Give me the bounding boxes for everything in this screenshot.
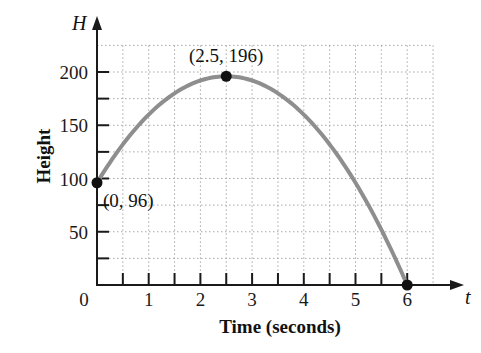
- x-tick-labels: 0123456: [79, 289, 412, 310]
- y-tick-label: 50: [69, 222, 88, 243]
- chart: (0, 96)(2.5, 196) 50100150200 0123456 H …: [0, 0, 481, 353]
- y-axis: [97, 28, 109, 285]
- x-axis-arrow-icon: [450, 280, 464, 290]
- x-tick-label: 5: [351, 289, 361, 310]
- x-tick-label: 4: [299, 289, 309, 310]
- y-axis-title: Height: [33, 128, 54, 184]
- x-tick-label: 6: [402, 289, 412, 310]
- x-tick-label: 0: [79, 289, 89, 310]
- y-tick-label: 100: [60, 169, 89, 190]
- point-label: (2.5, 196): [189, 45, 263, 67]
- grid: [97, 45, 433, 285]
- y-tick-label: 150: [60, 115, 89, 136]
- data-point-marker: [92, 177, 103, 188]
- x-tick-label: 1: [144, 289, 154, 310]
- x-axis-title: Time (seconds): [219, 316, 341, 338]
- y-tick-labels: 50100150200: [60, 62, 89, 243]
- x-variable-label: t: [465, 286, 471, 308]
- y-tick-label: 200: [60, 62, 89, 83]
- x-tick-label: 3: [247, 289, 257, 310]
- y-variable-label: H: [71, 12, 88, 34]
- x-axis: [96, 273, 452, 285]
- y-axis-arrow-icon: [92, 16, 102, 30]
- point-label: (0, 96): [103, 190, 154, 212]
- data-point-marker: [221, 71, 232, 82]
- x-tick-label: 2: [196, 289, 206, 310]
